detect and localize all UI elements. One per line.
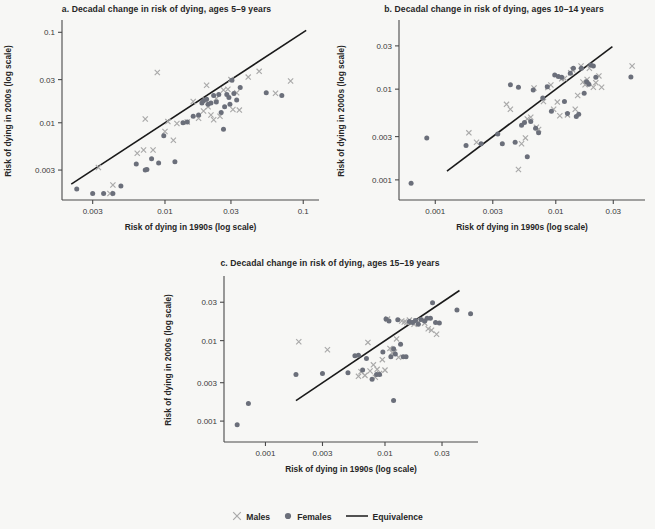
filled-circle-marker-icon	[283, 511, 293, 523]
data-point-female	[196, 112, 201, 117]
data-point-male	[382, 368, 387, 373]
data-point-female	[235, 422, 240, 427]
data-point-male	[394, 336, 399, 341]
data-point-male	[246, 74, 251, 79]
data-point-male	[474, 140, 479, 145]
x-tick-label: 0.003	[483, 207, 504, 216]
data-point-female	[204, 97, 209, 102]
data-point-male	[225, 87, 230, 92]
data-point-female	[568, 71, 573, 76]
data-point-female	[391, 398, 396, 403]
data-point-male	[523, 135, 528, 140]
data-point-male	[221, 87, 226, 92]
data-point-female	[211, 93, 216, 98]
panel-a-title: a. Decadal change in risk of dying, ages…	[0, 4, 333, 14]
data-point-female	[393, 352, 398, 357]
data-point-male	[135, 151, 140, 156]
series-females	[74, 78, 284, 196]
data-point-female	[586, 82, 591, 87]
legend-item-males: Males	[232, 511, 270, 523]
series-males	[466, 63, 634, 172]
y-tick-label: 0.01	[39, 119, 55, 128]
data-point-female	[219, 110, 224, 115]
data-point-female	[110, 191, 115, 196]
data-point-male	[257, 69, 262, 74]
legend-item-females: Females	[283, 511, 331, 523]
y-tick-label: 0.001	[197, 417, 218, 426]
data-point-female	[495, 132, 500, 137]
panel-b-plot: 0.0010.0030.010.030.0010.0030.010.03Risk…	[333, 4, 655, 248]
data-point-female	[185, 119, 190, 124]
data-point-male	[191, 99, 196, 104]
y-tick-label: 0.001	[372, 176, 393, 185]
data-point-female	[208, 101, 213, 106]
legend-label-males: Males	[246, 512, 270, 522]
data-point-female	[320, 371, 325, 376]
data-point-female	[156, 160, 161, 165]
y-axis-title: Risk of dying in 2000s (log scale)	[163, 294, 173, 426]
data-point-female	[398, 342, 403, 347]
data-point-female	[356, 353, 361, 358]
x-tick-label: 0.001	[255, 449, 276, 458]
data-point-female	[388, 354, 393, 359]
chart-panel-c: c. Decadal change in risk of dying, ages…	[160, 258, 500, 488]
panel-c-title: c. Decadal change in risk of dying, ages…	[160, 258, 500, 268]
data-point-female	[424, 135, 429, 140]
legend-item-equivalence: Equivalence	[345, 511, 423, 523]
y-tick-label: 0.03	[376, 42, 392, 51]
data-point-female	[437, 321, 442, 326]
data-point-female	[582, 91, 587, 96]
data-point-female	[593, 75, 598, 80]
equivalence-line	[71, 30, 306, 184]
data-point-male	[557, 113, 562, 118]
figure-root: a. Decadal change in risk of dying, ages…	[0, 0, 655, 529]
data-point-female	[172, 159, 177, 164]
data-point-female	[579, 66, 584, 71]
data-point-female	[229, 78, 234, 83]
data-point-female	[628, 75, 633, 80]
x-tick-label: 0.001	[425, 207, 446, 216]
data-point-male	[325, 347, 330, 352]
data-point-male	[591, 85, 596, 90]
data-point-male	[288, 78, 293, 83]
data-point-female	[395, 317, 400, 322]
data-point-female	[391, 346, 396, 351]
chart-panel-a: a. Decadal change in risk of dying, ages…	[0, 4, 333, 248]
data-point-female	[404, 354, 409, 359]
x-axis-title: Risk of dying in 1990s (log scale)	[456, 222, 588, 232]
legend-label-equivalence: Equivalence	[373, 512, 423, 522]
data-point-male	[143, 116, 148, 121]
data-point-male	[273, 91, 278, 96]
series-males	[96, 69, 293, 196]
panel-b-title: b. Decadal change in risk of dying, ages…	[333, 4, 655, 14]
y-tick-label: 0.01	[376, 85, 392, 94]
data-point-female	[364, 356, 369, 361]
y-tick-label: 0.03	[201, 298, 217, 307]
data-point-female	[380, 350, 385, 355]
data-point-female	[386, 319, 391, 324]
data-point-female	[531, 87, 536, 92]
data-point-male	[208, 112, 213, 117]
data-point-male	[110, 182, 115, 187]
data-point-male	[230, 107, 235, 112]
data-point-male	[150, 147, 155, 152]
data-point-female	[370, 377, 375, 382]
data-point-female	[533, 126, 538, 131]
data-point-male	[599, 85, 604, 90]
equivalence-line	[447, 47, 612, 172]
data-point-male	[630, 63, 635, 68]
data-point-female	[246, 401, 251, 406]
data-point-female	[479, 141, 484, 146]
y-tick-label: 0.01	[201, 337, 217, 346]
data-point-female	[360, 368, 365, 373]
data-point-female	[216, 92, 221, 97]
data-point-male	[211, 117, 216, 122]
equivalence-line	[296, 290, 460, 400]
data-point-female	[562, 99, 567, 104]
data-point-male	[516, 167, 521, 172]
data-point-female	[90, 191, 95, 196]
data-point-male	[555, 100, 560, 105]
x-tick-label: 0.003	[312, 449, 333, 458]
y-tick-label: 0.003	[35, 166, 56, 175]
data-point-male	[141, 147, 146, 152]
